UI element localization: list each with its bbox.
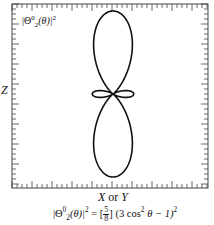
z-axis-label: Z	[1, 83, 8, 98]
formula-caption: |Θ02(θ)|2 = [58] (3 cos2 θ − 1)2	[0, 206, 214, 223]
inset-label: |Θ02(θ)|2	[22, 15, 56, 26]
xy-axis-label: X or Y	[0, 190, 214, 205]
orbital-curve	[92, 11, 134, 177]
